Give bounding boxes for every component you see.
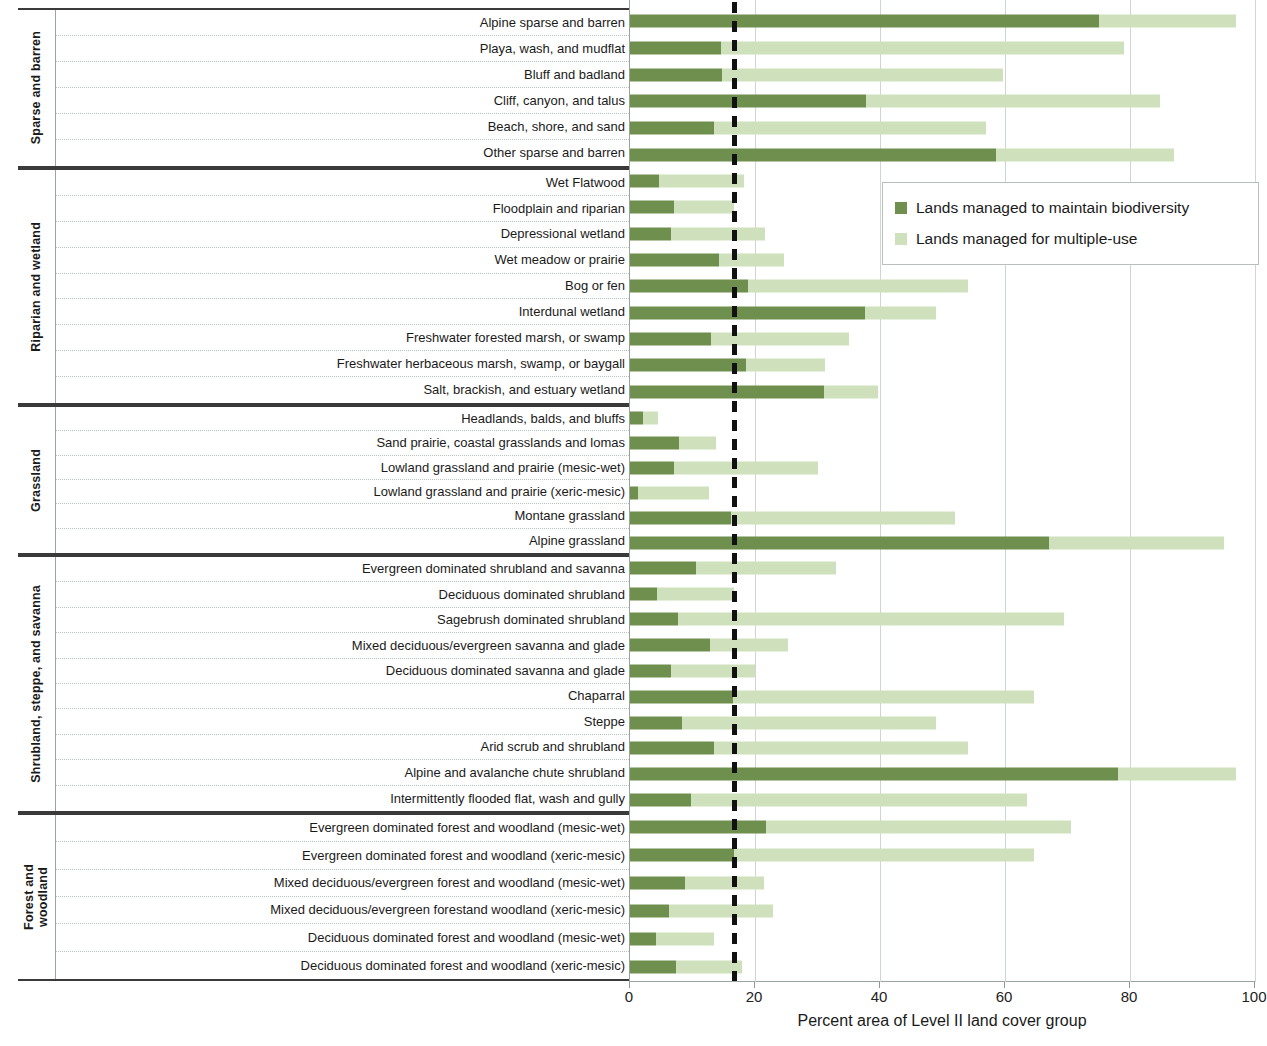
- x-tick-label-100: 100: [1241, 988, 1266, 1005]
- group-block-2: GrasslandHeadlands, balds, and bluffsSan…: [18, 405, 629, 555]
- bar-segment-multiple-use: [1099, 15, 1237, 28]
- category-label: Deciduous dominated savanna and glade: [56, 659, 629, 684]
- bar-segment-multiple-use: [679, 436, 716, 449]
- category-label: Lowland grassland and prairie (xeric-mes…: [56, 480, 629, 504]
- category-label: Freshwater forested marsh, or swamp: [56, 325, 629, 351]
- group-rows-0: Alpine sparse and barrenPlaya, wash, and…: [56, 10, 629, 166]
- bar-segment-biodiversity: [630, 716, 682, 729]
- bar-segment-biodiversity: [630, 15, 1099, 28]
- bar-segment-multiple-use: [674, 201, 734, 214]
- category-label: Intermittently flooded flat, wash and gu…: [56, 786, 629, 811]
- bar-segment-biodiversity: [630, 877, 685, 890]
- category-label: Depressional wetland: [56, 222, 629, 248]
- bar-segment-biodiversity: [630, 227, 671, 240]
- legend-label-biodiversity: Lands managed to maintain biodiversity: [916, 199, 1189, 217]
- category-label: Bluff and badland: [56, 62, 629, 88]
- bar-row: [630, 658, 1255, 684]
- category-label: Lowland grassland and prairie (mesic-wet…: [56, 456, 629, 480]
- category-label: Beach, shore, and sand: [56, 114, 629, 140]
- bar-row: [630, 555, 1255, 581]
- group-rows-2: Headlands, balds, and bluffsSand prairie…: [56, 407, 629, 553]
- bar-segment-biodiversity: [630, 385, 824, 398]
- group-title-0: Sparse and barren: [18, 10, 56, 166]
- bar-row: [630, 736, 1255, 762]
- bar-row: [630, 430, 1255, 455]
- bar-segment-multiple-use: [691, 794, 1027, 807]
- bar-segment-biodiversity: [630, 436, 679, 449]
- bar-segment-multiple-use: [674, 461, 818, 474]
- bar-segment-multiple-use: [671, 665, 755, 678]
- bar-segment-multiple-use: [685, 877, 764, 890]
- bar-segment-biodiversity: [630, 690, 733, 703]
- category-label: Wet Flatwood: [56, 170, 629, 196]
- bar-row: [630, 897, 1255, 925]
- bar-row: [630, 761, 1255, 787]
- category-label: Mixed deciduous/evergreen forestand wood…: [56, 897, 629, 924]
- bar-row: [630, 710, 1255, 736]
- bar-segment-multiple-use: [682, 716, 936, 729]
- bar-segment-biodiversity: [630, 461, 674, 474]
- group-block-1: Riparian and wetlandWet FlatwoodFloodpla…: [18, 168, 629, 405]
- bar-row: [630, 953, 1255, 981]
- group-title-label: Shrubland, steppe, and savanna: [30, 585, 44, 783]
- group-title-label: Sparse and barren: [30, 31, 44, 144]
- bar-segment-biodiversity: [630, 933, 656, 946]
- category-label: Alpine sparse and barren: [56, 10, 629, 36]
- bar-segment-biodiversity: [630, 536, 1049, 549]
- bar-row: [630, 925, 1255, 953]
- bar-row: [630, 480, 1255, 505]
- x-axis: 020406080100: [629, 982, 1255, 1008]
- bar-row: [630, 326, 1255, 352]
- bar-row: [630, 300, 1255, 326]
- bar-segment-biodiversity: [630, 121, 714, 134]
- bar-segment-multiple-use: [657, 587, 734, 600]
- legend-label-multiple-use: Lands managed for multiple-use: [916, 230, 1137, 248]
- legend-item-biodiversity: Lands managed to maintain biodiversity: [895, 199, 1246, 217]
- bar-segment-multiple-use: [748, 280, 968, 293]
- bar-segment-multiple-use: [656, 933, 714, 946]
- bar-row: [630, 273, 1255, 299]
- x-tick-label-60: 60: [996, 988, 1013, 1005]
- bar-row: [630, 352, 1255, 378]
- bar-row: [630, 632, 1255, 658]
- category-label: Floodplain and riparian: [56, 196, 629, 222]
- category-label: Evergreen dominated forest and woodland …: [56, 815, 629, 842]
- category-label: Mixed deciduous/evergreen savanna and gl…: [56, 633, 629, 658]
- legend-item-multiple-use: Lands managed for multiple-use: [895, 230, 1246, 248]
- bar-segment-biodiversity: [630, 613, 678, 626]
- group-title-1: Riparian and wetland: [18, 170, 56, 403]
- category-label: Deciduous dominated forest and woodland …: [56, 952, 629, 979]
- group-title-label: Grassland: [30, 449, 44, 512]
- category-label: Mixed deciduous/evergreen forest and woo…: [56, 870, 629, 897]
- category-label: Interdunal wetland: [56, 299, 629, 325]
- category-label: Sand prairie, coastal grasslands and lom…: [56, 431, 629, 455]
- bar-segment-biodiversity: [630, 905, 669, 918]
- bar-segment-biodiversity: [630, 486, 638, 499]
- reference-average-line: [732, 2, 737, 981]
- bar-segment-multiple-use: [714, 121, 987, 134]
- bar-segment-biodiversity: [630, 175, 659, 188]
- bar-segment-biodiversity: [630, 849, 734, 862]
- bar-segment-multiple-use: [734, 849, 1034, 862]
- bar-segment-biodiversity: [630, 359, 746, 372]
- bar-segment-multiple-use: [721, 41, 1124, 54]
- category-label: Evergreen dominated shrubland and savann…: [56, 557, 629, 582]
- bar-segment-multiple-use: [865, 306, 936, 319]
- bar-segment-multiple-use: [710, 639, 788, 652]
- bar-row: [630, 505, 1255, 530]
- x-tick-label-0: 0: [625, 988, 633, 1005]
- category-label: Montane grassland: [56, 504, 629, 528]
- bar-segment-multiple-use: [733, 690, 1034, 703]
- category-label: Playa, wash, and mudflat: [56, 36, 629, 62]
- bar-segment-biodiversity: [630, 821, 766, 834]
- category-label: Headlands, balds, and bluffs: [56, 407, 629, 431]
- bar-row: [630, 607, 1255, 633]
- bar-segment-multiple-use: [731, 511, 955, 524]
- bar-row: [630, 405, 1255, 430]
- bar-segment-biodiversity: [630, 961, 676, 974]
- bar-segment-biodiversity: [630, 333, 711, 346]
- bar-row: [630, 787, 1255, 813]
- group-block-0: Sparse and barrenAlpine sparse and barre…: [18, 8, 629, 168]
- plot-area: [629, 0, 1255, 982]
- bar-segment-multiple-use: [766, 821, 1070, 834]
